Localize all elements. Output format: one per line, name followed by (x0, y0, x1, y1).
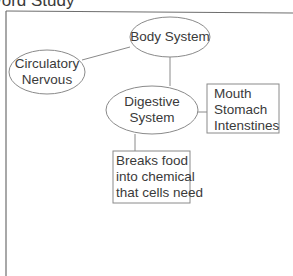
node-organs-line: Mouth (214, 86, 279, 102)
node-function-line: Breaks food (116, 153, 203, 169)
node-function-line: that cells need (116, 185, 203, 201)
node-digestive-line: Digestive (106, 94, 198, 110)
node-nervous-line: Nervous (9, 72, 85, 88)
node-circulatory-nervous-label: Circulatory Nervous (9, 56, 85, 88)
node-body-system-line: Body System (130, 29, 210, 45)
node-function-line: into chemical (116, 169, 203, 185)
node-organs-line: Intenstines (214, 118, 279, 134)
node-circulatory-line: Circulatory (9, 56, 85, 72)
frame-top-line (6, 11, 293, 13)
node-organs-line: Stomach (214, 102, 279, 118)
node-function-label: Breaks food into chemical that cells nee… (116, 153, 203, 201)
edge-body-to-circulatory (82, 47, 130, 60)
node-system-line: System (106, 110, 198, 126)
node-organs-label: Mouth Stomach Intenstines (214, 86, 279, 134)
node-digestive-system-label: Digestive System (106, 94, 198, 126)
node-body-system-label: Body System (130, 29, 210, 45)
